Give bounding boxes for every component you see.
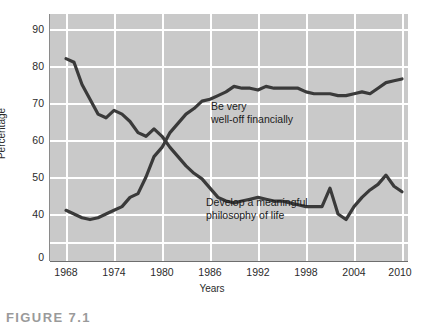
y-tick-60: 60 bbox=[32, 135, 44, 145]
x-tick-1974: 1974 bbox=[102, 266, 125, 278]
x-tick-2004: 2004 bbox=[342, 266, 365, 278]
series-layer bbox=[50, 14, 408, 261]
y-tick-70: 70 bbox=[32, 98, 44, 108]
annotation-philosophy: Develop a meaningful philosophy of life bbox=[206, 196, 308, 222]
x-axis-line bbox=[50, 261, 408, 262]
plot-area: Be very well-off financially Develop a m… bbox=[50, 14, 408, 261]
x-axis-title: Years bbox=[0, 283, 424, 294]
y-tick-80: 80 bbox=[32, 61, 44, 71]
x-tick-1992: 1992 bbox=[246, 266, 269, 278]
annotation-well-off: Be very well-off financially bbox=[211, 100, 293, 126]
x-tick-1998: 1998 bbox=[294, 266, 317, 278]
chart-figure: 90 80 70 60 50 40 0 Percentage bbox=[0, 0, 424, 323]
x-tick-1986: 1986 bbox=[198, 266, 221, 278]
x-tick-1980: 1980 bbox=[150, 266, 173, 278]
y-axis-tick-labels: 90 80 70 60 50 40 0 bbox=[0, 0, 44, 323]
x-tick-1968: 1968 bbox=[54, 266, 77, 278]
y-axis-title: Percentage bbox=[0, 108, 7, 159]
y-tick-90: 90 bbox=[32, 24, 44, 34]
y-tick-40: 40 bbox=[32, 209, 44, 219]
y-tick-0: 0 bbox=[38, 252, 44, 262]
y-tick-50: 50 bbox=[32, 172, 44, 182]
x-tick-2010: 2010 bbox=[388, 266, 411, 278]
figure-caption: FIGURE 7.1 bbox=[6, 310, 91, 323]
